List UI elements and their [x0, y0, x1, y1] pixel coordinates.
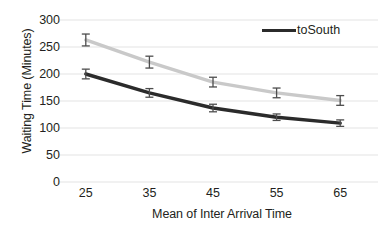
x-tick-label: 55 [257, 186, 297, 200]
x-tick-label: 65 [320, 186, 360, 200]
x-tick-label: 45 [193, 186, 233, 200]
x-axis-title: Mean of Inter Arrival Time [60, 207, 384, 221]
chart-legend: toSouth [262, 24, 340, 37]
x-tick-label: 35 [129, 186, 169, 200]
chart-figure: Waiting Time (Minutes) 05010015020025030… [0, 0, 384, 232]
legend-item-label: toSouth [296, 24, 340, 37]
x-tick-label: 25 [66, 186, 106, 200]
legend-line-swatch [262, 29, 296, 32]
